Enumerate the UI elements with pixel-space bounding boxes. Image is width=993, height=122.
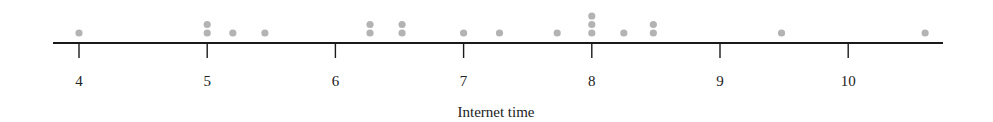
x-tick-label: 5	[203, 73, 211, 89]
x-axis-ticks: 45678910	[75, 43, 855, 89]
data-dot	[620, 29, 627, 36]
data-dot	[398, 21, 405, 28]
data-dot	[75, 29, 82, 36]
data-dot	[650, 29, 657, 36]
data-dot	[261, 29, 268, 36]
data-dot	[650, 21, 657, 28]
x-tick-label: 4	[75, 73, 83, 89]
data-dot	[460, 29, 467, 36]
data-dot	[496, 29, 503, 36]
x-tick-label: 9	[716, 73, 724, 89]
x-axis-title: Internet time	[457, 104, 534, 120]
data-dot	[554, 29, 561, 36]
x-tick-label: 7	[460, 73, 468, 89]
data-dot	[588, 12, 595, 19]
data-dot	[204, 21, 211, 28]
data-dot	[588, 29, 595, 36]
data-dot	[922, 29, 929, 36]
data-dot	[366, 21, 373, 28]
data-dot	[229, 29, 236, 36]
data-dot	[588, 21, 595, 28]
data-dot	[204, 29, 211, 36]
data-dots	[75, 12, 928, 36]
x-tick-label: 8	[588, 73, 596, 89]
x-tick-label: 6	[332, 73, 340, 89]
x-tick-label: 10	[841, 73, 856, 89]
data-dot	[366, 29, 373, 36]
data-dot	[778, 29, 785, 36]
data-dot	[398, 29, 405, 36]
dot-plot: 45678910 Internet time	[0, 0, 993, 122]
